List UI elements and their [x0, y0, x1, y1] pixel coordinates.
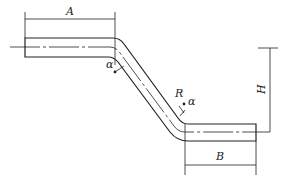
label-h: H [255, 84, 268, 95]
label-b: B [215, 150, 224, 163]
label-r: R [174, 87, 183, 100]
label-a: A [65, 5, 74, 18]
bent-bar-drawing: A B R α α H [0, 0, 294, 187]
label-alpha-top: α [106, 58, 114, 71]
bar-outline [25, 38, 256, 141]
centerline [10, 47, 270, 132]
label-alpha-bottom: α [188, 95, 196, 108]
